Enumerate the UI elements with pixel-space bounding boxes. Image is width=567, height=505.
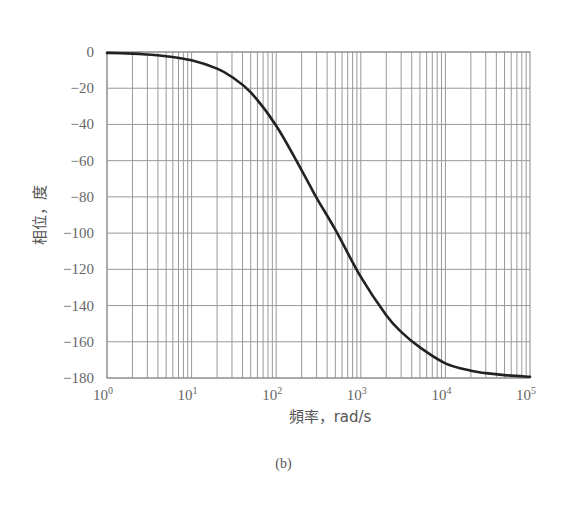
y-tick-label: −80 bbox=[71, 189, 94, 205]
y-tick-label: 0 bbox=[87, 44, 95, 60]
x-axis-tick-labels: 100101102103104105 bbox=[93, 385, 536, 403]
x-axis-title: 頻率，rad/s bbox=[289, 408, 372, 426]
figure-caption: (b) bbox=[0, 456, 567, 472]
x-tick-label: 104 bbox=[431, 385, 451, 403]
phase-plot: 0−20−40−60−80−100−120−140−160−180 100101… bbox=[0, 0, 567, 505]
x-tick-label: 100 bbox=[93, 385, 113, 403]
phase-curve bbox=[107, 53, 530, 377]
y-tick-label: −40 bbox=[71, 116, 94, 132]
y-tick-label: −100 bbox=[63, 225, 94, 241]
y-tick-label: −20 bbox=[71, 80, 94, 96]
plot-frame bbox=[107, 52, 530, 378]
y-tick-label: −120 bbox=[63, 261, 94, 277]
y-tick-label: −160 bbox=[63, 334, 94, 350]
x-tick-label: 105 bbox=[516, 385, 536, 403]
x-tick-label: 103 bbox=[347, 385, 367, 403]
grid-lines bbox=[107, 52, 530, 378]
x-tick-label: 101 bbox=[178, 385, 198, 403]
x-tick-label: 102 bbox=[262, 385, 282, 403]
y-tick-label: −60 bbox=[71, 153, 94, 169]
y-axis-tick-labels: 0−20−40−60−80−100−120−140−160−180 bbox=[63, 44, 94, 386]
y-tick-label: −140 bbox=[63, 298, 94, 314]
y-axis-title: 相位，度 bbox=[31, 185, 49, 245]
y-tick-label: −180 bbox=[63, 370, 94, 386]
